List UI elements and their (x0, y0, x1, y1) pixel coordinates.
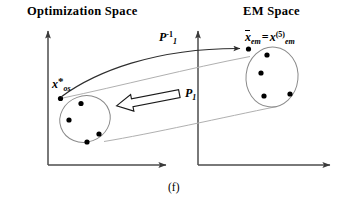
optimization-space-title: Optimization Space (27, 5, 138, 18)
optimization-space-point (66, 117, 71, 122)
label-p1-subscript: 1 (192, 93, 196, 102)
figure-caption: (f) (168, 182, 180, 194)
em-space-point (258, 70, 263, 75)
em-space-cluster (243, 44, 301, 109)
label-x-em-equals: = (261, 30, 270, 44)
tube-lower-line (104, 107, 277, 142)
p1-inverse-curve (61, 48, 240, 97)
label-x-em-base: x (245, 31, 251, 43)
p1-block-arrow-shape (115, 85, 181, 114)
em-space-ellipse (243, 44, 301, 109)
label-p1-inverse: P-11 (159, 31, 177, 46)
label-x-os: x*os (52, 76, 71, 93)
optimization-space-point (78, 101, 83, 106)
optimization-space-point (96, 131, 101, 136)
optimization-space-cluster (53, 89, 117, 150)
figure-panel-f: Optimization Space EM Space x*os xem=x(5… (0, 0, 352, 203)
em-space-point-xem (246, 46, 251, 51)
optimization-space-point (84, 139, 89, 144)
em-space-point (264, 52, 269, 57)
label-x-em-subscript: em (251, 37, 261, 46)
label-x-em-superscript: (5) (276, 30, 285, 39)
p1-inverse-curved-arrow (61, 48, 240, 97)
em-space-point (261, 93, 266, 98)
label-x-em-subscript2: em (285, 37, 295, 46)
em-space-point (287, 91, 292, 96)
label-p1: P1 (185, 87, 196, 102)
label-x-em: xem=x(5)em (245, 31, 295, 46)
p1-block-arrow (115, 85, 181, 114)
label-p1-inverse-subscript: 1 (173, 37, 177, 46)
em-space-title: EM Space (243, 5, 300, 18)
label-p1-inverse-superscript: -1 (166, 30, 173, 39)
label-x-os-subscript: os (64, 84, 71, 93)
tube-upper-line (61, 57, 251, 99)
